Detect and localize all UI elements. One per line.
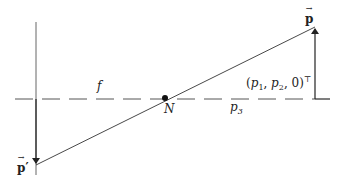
object-point-label: p — [305, 13, 313, 25]
nodal-point-label: N — [164, 103, 175, 115]
image-point-label: p′ — [17, 162, 29, 174]
prime-mark: ′ — [25, 161, 28, 175]
projection-ray — [36, 27, 315, 165]
p3-subscript: 3 — [238, 107, 243, 116]
coords-sep1: , — [263, 76, 271, 90]
p3-base: p — [230, 100, 238, 114]
coords-sep2: , 0) — [284, 76, 304, 90]
focal-length-label: f — [97, 80, 101, 92]
nodal-point — [162, 95, 168, 101]
coords-p2: p — [271, 76, 279, 90]
object-point-vector: p — [305, 13, 313, 25]
p3-distance-label: p3 — [230, 101, 243, 116]
transpose-symbol: ⊤ — [304, 75, 312, 84]
image-point-vector: p — [17, 162, 25, 174]
object-coordinates-label: (p1, p2, 0)⊤ — [246, 76, 311, 92]
